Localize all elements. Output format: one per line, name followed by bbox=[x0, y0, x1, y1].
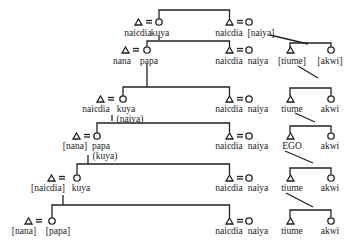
row4-ego-label: EGO bbox=[282, 141, 302, 151]
row5-right-husband-label: naicdia bbox=[215, 183, 242, 193]
row3-left-couple bbox=[97, 96, 126, 102]
row2-brother-label: [tiume] bbox=[278, 56, 306, 66]
row5-right-couple bbox=[226, 175, 252, 181]
row2-left-husband-label: nana bbox=[113, 56, 131, 66]
row5-right-wife-label: naiya bbox=[248, 183, 269, 193]
row4-sister-label: akwi bbox=[321, 141, 339, 151]
row5-sister-label: akwi bbox=[321, 183, 339, 193]
row6-brother-label: tiume bbox=[281, 226, 303, 236]
row2-left-wife-label: papa bbox=[140, 56, 158, 66]
row3-right-couple bbox=[226, 96, 252, 102]
row5-left-couple bbox=[48, 175, 80, 181]
row3-right-husband-label: naicdia bbox=[215, 104, 242, 114]
row2-left-couple bbox=[122, 47, 150, 53]
row6-sister-label: akwi bbox=[321, 226, 339, 236]
row6-left-couple bbox=[25, 218, 55, 224]
row6-left-husband-label: [nana] bbox=[12, 226, 36, 236]
row6-right-wife-label: naiya bbox=[248, 226, 269, 236]
row4-right-husband-label: naicdia bbox=[215, 141, 242, 151]
row4-left-wife-label: papa bbox=[92, 141, 110, 151]
row4-right-couple bbox=[226, 133, 252, 139]
row1-left-couple bbox=[135, 19, 162, 25]
row1-right-husband-label: naicdia bbox=[215, 28, 242, 38]
row2-right-couple bbox=[226, 47, 252, 53]
row5-brother-label: tiume bbox=[281, 183, 303, 193]
row4-left-couple bbox=[73, 133, 100, 139]
row3-brother-label: tiume bbox=[281, 104, 303, 114]
row1-left-wife-label: kuya bbox=[151, 28, 169, 38]
row6-right-husband-label: naicdia bbox=[215, 226, 242, 236]
row3-sister-label: akwi bbox=[321, 104, 339, 114]
row6-right-couple bbox=[226, 218, 252, 224]
row2-right-husband-label: naicdia bbox=[215, 56, 242, 66]
row2-sister-label: [akwi] bbox=[318, 56, 343, 66]
row1-left-husband-label: naicdia bbox=[124, 28, 151, 38]
kinship-diagram-lines bbox=[0, 0, 358, 244]
row3-left-husband-label: naicdia bbox=[82, 104, 109, 114]
row6-left-wife-label: [papa] bbox=[46, 226, 70, 236]
row3-right-wife-label: naiya bbox=[248, 104, 269, 114]
row1-right-couple bbox=[226, 19, 252, 25]
row3-left-wife-alt-label: (naiya) bbox=[117, 114, 144, 124]
row2-right-wife-label: naiya bbox=[248, 56, 269, 66]
row4-left-wife-alt-label: (kuya) bbox=[93, 151, 118, 161]
row3-left-wife-label: kuya bbox=[117, 104, 135, 114]
row4-left-husband-label: [nana] bbox=[63, 141, 87, 151]
row1-right-wife-label: [naiya] bbox=[248, 28, 275, 38]
row5-left-husband-label: [naicdia] bbox=[31, 183, 65, 193]
row4-right-wife-label: naiya bbox=[248, 141, 269, 151]
row5-left-wife-label: kuya bbox=[72, 183, 90, 193]
